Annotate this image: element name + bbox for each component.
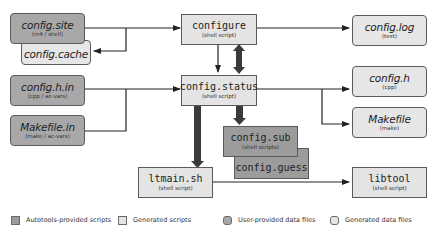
node-config-status-sub: (shell script) [202,93,236,100]
edge-config-status-to-config-sub [233,105,246,125]
legend-swatch-autotools-scripts [11,216,20,225]
node-config-sub-sub: (shell scripts) [242,144,279,151]
node-configure-sub: (shell script) [202,32,236,39]
legend-label-user-data-files: User-provided data files [238,216,315,224]
node-configure-title: configure [192,20,246,32]
edge-config-site-to-config-cache [94,28,126,51]
node-ltmain-sh-sub: (shell script) [158,185,192,192]
node-makefile-title: Makefile [368,113,410,125]
node-config-h: config.h (cpp) [352,66,427,97]
node-config-sub-title: config.sub [230,132,290,144]
node-libtool-title: libtool [368,173,410,185]
node-ltmain-sh: ltmain.sh (shell script) [138,167,213,198]
node-config-h-sub: (cpp) [382,84,396,91]
node-ltmain-sh-title: ltmain.sh [148,173,202,185]
node-config-site-title: config.site [21,19,73,31]
node-makefile-sub: (make) [380,125,399,132]
node-makefile: Makefile (make) [352,107,427,138]
legend-autotools-scripts: Autotools-provided scripts [11,214,111,226]
node-config-log: config.log (text) [352,15,427,46]
node-config-h-in-title: config.h.in [21,81,74,93]
node-config-site: config.site (m4 / shell) [10,13,85,44]
node-libtool: libtool (shell script) [352,167,427,198]
node-config-status-title: config.status [180,81,258,93]
node-config-h-title: config.h [369,72,410,84]
node-makefile-in: Makefile.in (make / ac-vars) [10,115,85,146]
node-config-site-sub: (m4 / shell) [32,31,63,38]
node-makefile-in-sub: (make / ac-vars) [25,133,70,140]
edge-config-status-to-makefile [322,89,349,124]
legend-generated-scripts: Generated scripts [118,214,191,226]
edge-makefile-in-join [84,89,126,131]
node-config-h-in: config.h.in (cpp / ac-vars) [10,75,85,106]
node-config-log-sub: (text) [382,33,397,40]
legend-swatch-generated-scripts [118,216,127,225]
edge-configure-config-status-bidirectional [233,44,245,74]
node-config-cache-title: config.cache [24,48,88,60]
legend-swatch-generated-data-files [330,216,339,225]
node-config-sub: config.sub (shell scripts) [223,126,298,157]
node-config-log-title: config.log [365,21,414,33]
legend-user-data-files: User-provided data files [223,214,315,226]
node-config-status: config.status (shell script) [181,75,257,106]
legend-label-autotools-scripts: Autotools-provided scripts [26,216,111,224]
node-configure: configure (shell script) [181,14,257,45]
legend-label-generated-data-files: Generated data files [345,216,412,224]
node-makefile-in-title: Makefile.in [20,121,75,133]
node-config-h-in-sub: (cpp / ac-vars) [28,93,68,100]
edge-config-status-to-ltmain [191,105,204,168]
legend-label-generated-scripts: Generated scripts [133,216,191,224]
legend-generated-data-files: Generated data files [330,214,412,226]
node-config-guess-title: config.guess [235,162,307,174]
node-libtool-sub: (shell script) [372,185,406,192]
legend-swatch-user-data-files [223,216,232,225]
